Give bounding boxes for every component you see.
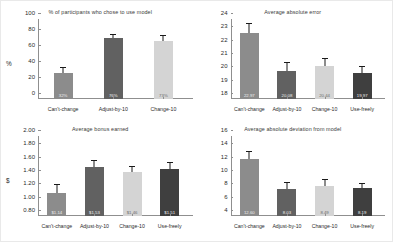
y-tick-label: 1.20	[23, 180, 38, 186]
x-tick-mark	[57, 214, 58, 217]
x-tick-label: Can't-change	[38, 106, 88, 112]
bar-slot: 76%	[88, 19, 138, 99]
error-bar-cap-top	[160, 35, 166, 36]
x-tick-label: Change-10	[306, 223, 344, 229]
x-tick-mark	[362, 214, 363, 217]
y-tick-label: 40	[28, 58, 38, 64]
x-tick-label: Can't-change	[38, 223, 76, 229]
error-bar-cap-top	[129, 166, 135, 167]
bar[interactable]: $1.46	[123, 172, 142, 216]
x-tick-mark	[325, 214, 326, 217]
plot-area: 020406080100 32%76%73%	[38, 19, 189, 99]
y-tick-label: 1.80	[23, 140, 38, 146]
bar-slot: 8.49	[306, 136, 344, 216]
plot-area: 18192021222324 22.9720.0820.4419.97	[231, 19, 382, 99]
chart-panel-1: Average absolute error 18192021222324 22…	[197, 4, 390, 121]
y-tick-label: 0.80	[23, 207, 38, 213]
figure-canvas: % of participants who chose to use model…	[0, 0, 393, 242]
x-tick-mark	[287, 97, 288, 100]
x-tick-label: Change-10	[306, 106, 344, 112]
x-tick-label: Use-freely	[343, 223, 381, 229]
bar-slot: 32%	[38, 19, 88, 99]
bar-slot: 20.08	[268, 19, 306, 99]
x-tick-label: Adjust-by-10	[268, 223, 306, 229]
chart-panel-0: % of participants who chose to use model…	[4, 4, 197, 121]
y-tick-label: 1.00	[23, 194, 38, 200]
y-tick-label: 80	[28, 26, 38, 32]
error-bar-cap-top	[167, 162, 173, 163]
y-tick-label: 2.00	[23, 127, 38, 133]
x-tick-mark	[249, 214, 250, 217]
y-tick-label: 21	[221, 50, 231, 56]
y-tick-label: 20	[28, 74, 38, 80]
bar[interactable]: 73%	[154, 41, 173, 99]
bar[interactable]: 8.49	[315, 186, 334, 216]
x-tick-mark	[163, 97, 164, 100]
bar[interactable]: 22.97	[240, 33, 259, 99]
x-tick-mark	[132, 214, 133, 217]
x-tick-label-group: Can't-changeAdjust-by-10Change-10Use-fre…	[231, 223, 382, 229]
bar[interactable]: 20.08	[277, 71, 296, 99]
y-tick-label: 12	[221, 154, 231, 160]
x-tick-label: Adjust-by-10	[88, 106, 138, 112]
bar-slot: 19.97	[343, 19, 381, 99]
x-tick-label: Use-freely	[343, 106, 381, 112]
x-tick-label-group: Can't-changeAdjust-by-10Change-10	[38, 106, 189, 112]
x-tick-mark	[63, 97, 64, 100]
bar-slot: 8.03	[268, 136, 306, 216]
panel-grid: % of participants who chose to use model…	[4, 4, 389, 238]
x-tick-mark	[287, 214, 288, 217]
bar-slot: 8.19	[343, 136, 381, 216]
y-tick-label: 18	[221, 90, 231, 96]
y-tick-label: 23	[221, 23, 231, 29]
plot-area: 0.801.001.201.401.601.802.00 $1.14$1.53$…	[38, 136, 189, 216]
y-tick-mark	[231, 130, 234, 131]
error-bar-cap-top	[359, 183, 365, 184]
error-bar-cap-top	[284, 62, 290, 63]
x-tick-label: Use-freely	[151, 223, 189, 229]
x-tick-mark	[94, 214, 95, 217]
x-tick-mark	[249, 97, 250, 100]
bar-group: 12.608.038.498.19	[231, 136, 382, 216]
error-bar-cap-top	[246, 23, 252, 24]
error-bar-cap-top	[322, 58, 328, 59]
y-tick-label: 20	[221, 63, 231, 69]
y-tick-label: 24	[221, 10, 231, 16]
error-bar-cap-top	[284, 182, 290, 183]
bar[interactable]: $1.51	[160, 169, 179, 216]
x-tick-label-group: Can't-changeAdjust-by-10Change-10Use-fre…	[231, 106, 382, 112]
bar[interactable]: 19.97	[353, 73, 372, 99]
x-tick-label: Adjust-by-10	[76, 223, 114, 229]
bar[interactable]: 8.03	[277, 189, 296, 216]
bar[interactable]: 12.60	[240, 159, 259, 216]
error-bar-cap-top	[60, 67, 66, 68]
error-bar-cap-top	[359, 66, 365, 67]
bar[interactable]: 8.19	[353, 188, 372, 216]
y-tick-label: 1.40	[23, 167, 38, 173]
bar[interactable]: 32%	[54, 73, 73, 99]
y-tick-label: 60	[28, 42, 38, 48]
x-tick-mark	[325, 97, 326, 100]
y-tick-label: 16	[221, 127, 231, 133]
x-tick-label: Change-10	[138, 106, 188, 112]
x-tick-mark	[113, 97, 114, 100]
x-tick-label: Can't-change	[231, 106, 269, 112]
y-tick-label: 10	[221, 167, 231, 173]
bar[interactable]: 76%	[104, 38, 123, 99]
error-bar-cap-top	[322, 179, 328, 180]
bar-slot: $1.53	[76, 136, 114, 216]
y-tick-mark	[38, 13, 41, 14]
bar-slot: $1.46	[113, 136, 151, 216]
bar-group: $1.14$1.53$1.46$1.51	[38, 136, 189, 216]
y-tick-label: 100	[25, 10, 38, 16]
chart-panel-2: Average bonus earned $ 0.801.001.201.401…	[4, 121, 197, 238]
bar-slot: $1.14	[38, 136, 76, 216]
bar-slot: 22.97	[231, 19, 269, 99]
error-bar-cap-top	[91, 160, 97, 161]
y-tick-label: 19	[221, 77, 231, 83]
bar-group: 32%76%73%	[38, 19, 189, 99]
y-axis-label: %	[6, 59, 12, 66]
bar[interactable]: $1.53	[85, 167, 104, 216]
bar[interactable]: 20.44	[315, 66, 334, 99]
x-tick-label-group: Can't-changeAdjust-by-10Change-10Use-fre…	[38, 223, 189, 229]
